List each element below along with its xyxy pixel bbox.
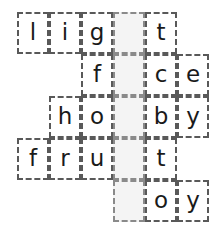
puzzle-cell-letter: o: [154, 189, 168, 212]
puzzle-cell[interactable]: t: [145, 138, 177, 180]
puzzle-cell-letter: g: [90, 21, 105, 44]
puzzle-cell[interactable]: y: [177, 96, 209, 138]
puzzle-cell-letter: c: [155, 63, 168, 86]
puzzle-cell[interactable]: l: [17, 12, 49, 54]
puzzle-cell-letter: y: [186, 105, 200, 128]
puzzle-cell[interactable]: t: [145, 12, 177, 54]
puzzle-cell[interactable]: r: [49, 138, 81, 180]
puzzle-cell-blank[interactable]: b: [113, 180, 145, 222]
puzzle-cell-letter: i: [62, 21, 68, 44]
puzzle-cell[interactable]: o: [81, 96, 113, 138]
puzzle-cell-blank[interactable]: i: [113, 138, 145, 180]
puzzle-cell[interactable]: f: [17, 138, 49, 180]
puzzle-cell-letter: h: [122, 21, 137, 44]
puzzle-cell[interactable]: i: [49, 12, 81, 54]
puzzle-cell-letter: o: [90, 105, 104, 128]
puzzle-cell-letter: e: [186, 63, 200, 86]
puzzle-cell-letter: h: [58, 105, 73, 128]
puzzle-cell-letter: f: [29, 147, 37, 170]
puzzle-cell-letter: y: [186, 189, 200, 212]
puzzle-cell-letter: f: [93, 63, 101, 86]
puzzle-cell[interactable]: o: [145, 180, 177, 222]
puzzle-cell[interactable]: c: [145, 54, 177, 96]
puzzle-cell[interactable]: u: [81, 138, 113, 180]
puzzle-cell[interactable]: y: [177, 180, 209, 222]
puzzle-cell-letter: t: [156, 21, 165, 44]
puzzle-cell-letter: i: [126, 147, 132, 170]
puzzle-cell-blank[interactable]: a: [113, 54, 145, 96]
puzzle-cell-letter: b: [122, 189, 137, 212]
puzzle-cell-letter: l: [30, 21, 36, 44]
puzzle-cell[interactable]: b: [145, 96, 177, 138]
puzzle-cell[interactable]: g: [81, 12, 113, 54]
puzzle-cell-letter: u: [90, 147, 105, 170]
puzzle-cell-blank[interactable]: h: [113, 12, 145, 54]
puzzle-cell[interactable]: h: [49, 96, 81, 138]
puzzle-cell-letter: b: [122, 105, 137, 128]
puzzle-cell-blank[interactable]: b: [113, 96, 145, 138]
puzzle-cell-letter: r: [60, 147, 69, 170]
word-puzzle-grid: lightfacehobbyfruitboy: [0, 0, 214, 229]
puzzle-cell-letter: b: [154, 105, 169, 128]
puzzle-cell[interactable]: f: [81, 54, 113, 96]
puzzle-cell-letter: t: [156, 147, 165, 170]
puzzle-cell[interactable]: e: [177, 54, 209, 96]
puzzle-cell-letter: a: [122, 63, 136, 86]
